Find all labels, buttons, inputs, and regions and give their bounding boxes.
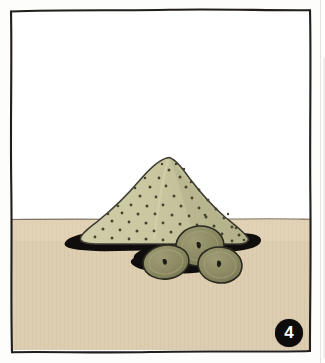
scene-svg [0, 0, 325, 363]
step-number-badge: 4 [275, 319, 303, 347]
scene-artwork: 4 [0, 0, 325, 363]
illustration-panel: 4 Step 4: a cone-shaped pile of speckled… [0, 0, 325, 363]
